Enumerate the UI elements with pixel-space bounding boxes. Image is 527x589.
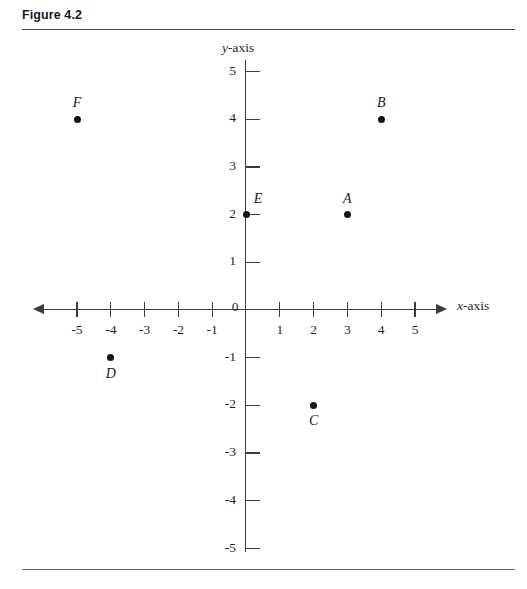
x-tick-label-4: 4: [368, 322, 394, 338]
point-dot-E: [243, 211, 250, 218]
y-tick-label-5: 5: [210, 63, 236, 79]
point-dot-F: [74, 116, 81, 123]
coordinate-plane-plot: 0 y-axis x-axis -5-4-3-2-112345 54321-1-…: [0, 0, 527, 589]
y-tick--4: [245, 500, 260, 501]
y-tick-label--5: -5: [210, 540, 236, 556]
point-label-F: F: [67, 95, 87, 111]
x-axis-label: x-axis: [457, 298, 489, 314]
y-tick--1: [245, 357, 260, 358]
y-tick-label--2: -2: [210, 396, 236, 412]
y-tick-label--1: -1: [210, 349, 236, 365]
y-tick-5: [245, 71, 260, 72]
y-tick--5: [245, 548, 260, 549]
origin-label: 0: [228, 299, 242, 315]
x-tick-4: [381, 302, 382, 317]
point-label-A: A: [337, 191, 357, 207]
x-axis-right-arrow-icon: [436, 304, 447, 314]
x-tick-label--3: -3: [132, 322, 158, 338]
y-axis-label: y-axis: [222, 40, 254, 56]
x-tick-label--5: -5: [64, 322, 90, 338]
x-tick-label-2: 2: [301, 322, 327, 338]
point-dot-C: [310, 402, 317, 409]
x-tick--5: [76, 302, 77, 317]
y-axis-label-suffix: -axis: [228, 40, 254, 55]
y-tick-4: [245, 119, 260, 120]
y-tick-label-4: 4: [210, 110, 236, 126]
x-tick-5: [414, 302, 415, 317]
x-tick--1: [212, 302, 213, 317]
x-tick-label-1: 1: [267, 322, 293, 338]
x-tick-label--2: -2: [165, 322, 191, 338]
y-tick-3: [245, 166, 260, 167]
x-tick-label--4: -4: [98, 322, 124, 338]
y-axis-line: [245, 60, 246, 552]
point-label-E: E: [248, 191, 268, 207]
x-tick-3: [347, 302, 348, 317]
x-tick--3: [144, 302, 145, 317]
x-tick-1: [279, 302, 280, 317]
y-tick-label--3: -3: [210, 444, 236, 460]
y-tick--3: [245, 452, 260, 453]
x-axis-label-suffix: -axis: [463, 298, 489, 313]
point-dot-D: [107, 354, 114, 361]
x-axis-left-arrow-icon: [33, 304, 44, 314]
x-tick--4: [110, 302, 111, 317]
point-label-D: D: [101, 366, 121, 382]
x-tick-label-3: 3: [334, 322, 360, 338]
x-tick-label-5: 5: [402, 322, 428, 338]
point-dot-A: [344, 211, 351, 218]
y-tick-1: [245, 262, 260, 263]
y-tick-label-2: 2: [210, 206, 236, 222]
x-tick-label--1: -1: [199, 322, 225, 338]
y-tick--2: [245, 405, 260, 406]
y-tick-label-1: 1: [210, 253, 236, 269]
point-label-B: B: [371, 95, 391, 111]
x-tick--2: [178, 302, 179, 317]
footer-divider-rule: [22, 569, 515, 570]
y-tick-label--4: -4: [210, 492, 236, 508]
x-tick-2: [313, 302, 314, 317]
point-dot-B: [378, 116, 385, 123]
point-label-C: C: [304, 413, 324, 429]
y-tick-label-3: 3: [210, 158, 236, 174]
